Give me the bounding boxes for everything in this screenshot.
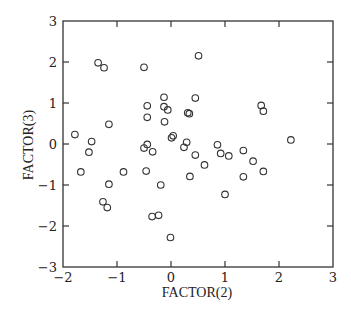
data-point-marker [240, 147, 247, 154]
data-point-marker [149, 213, 156, 220]
data-point-marker [225, 153, 232, 160]
x-tick-label: −1 [107, 270, 126, 285]
data-points [72, 53, 295, 241]
y-tick-label: −3 [38, 260, 57, 275]
data-point-marker [161, 94, 168, 101]
y-axis-label: FACTOR(3) [21, 110, 37, 181]
data-point-marker [149, 148, 156, 155]
data-point-marker [155, 212, 162, 219]
data-point-marker [141, 64, 148, 71]
data-point-marker [260, 108, 267, 115]
data-point-marker [240, 174, 247, 181]
y-tick-label: 0 [49, 137, 57, 152]
data-point-marker [106, 121, 113, 128]
data-point-marker [106, 181, 113, 188]
data-point-marker [214, 142, 221, 149]
data-point-marker [95, 60, 102, 67]
data-point-marker [288, 137, 295, 144]
data-point-marker [222, 191, 229, 198]
data-point-marker [161, 119, 168, 126]
data-point-marker [168, 135, 175, 142]
x-axis-label: FACTOR(2) [162, 285, 233, 301]
plot-frame [63, 21, 333, 267]
data-point-marker [120, 169, 127, 176]
y-tick-label: −2 [38, 219, 57, 234]
y-tick-label: 3 [49, 14, 57, 29]
data-point-marker [167, 234, 174, 241]
data-point-marker [78, 169, 85, 176]
data-point-marker [170, 133, 177, 140]
data-point-marker [86, 149, 93, 156]
data-point-marker [88, 138, 95, 145]
data-point-marker [192, 152, 199, 159]
y-tick-label: −1 [38, 178, 57, 193]
x-tick-label: 1 [221, 270, 229, 285]
data-point-marker [201, 162, 208, 169]
data-point-marker [144, 114, 151, 121]
y-tick-label: 1 [49, 96, 57, 111]
data-point-marker [104, 204, 111, 211]
data-point-marker [72, 131, 79, 138]
data-point-marker [250, 158, 257, 165]
data-point-marker [157, 182, 164, 189]
data-point-marker [195, 53, 202, 60]
x-tick-label: 2 [275, 270, 283, 285]
x-tick-label: 0 [167, 270, 175, 285]
data-point-marker [143, 168, 150, 175]
data-point-marker [187, 173, 194, 180]
y-tick-label: 2 [49, 55, 57, 70]
data-point-marker [144, 103, 151, 110]
data-point-marker [260, 168, 267, 175]
data-point-marker [217, 150, 224, 157]
data-point-marker [101, 64, 108, 71]
x-tick-label: 3 [329, 270, 337, 285]
data-point-marker [100, 199, 107, 206]
data-point-marker [192, 95, 199, 102]
scatter-chart: −2−10123 −3−2−10123 FACTOR(2) FACTOR(3) [0, 0, 351, 314]
